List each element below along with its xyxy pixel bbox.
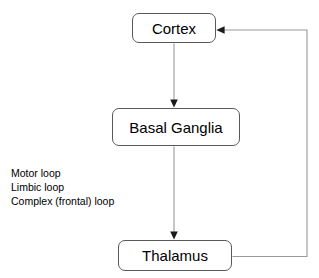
loop-item-limbic: Limbic loop (11, 180, 114, 194)
diagram-canvas: Cortex Basal Ganglia Thalamus Motor loop… (0, 0, 319, 278)
node-cortex-label: Cortex (152, 21, 196, 36)
edge-thalamus-to-cortex-arrowhead (216, 26, 224, 34)
node-basal-ganglia[interactable]: Basal Ganglia (112, 108, 240, 146)
loop-item-motor: Motor loop (11, 166, 114, 180)
loop-type-list: Motor loop Limbic loop Complex (frontal)… (11, 166, 114, 208)
edge-basal-ganglia-to-thalamus-arrowhead (170, 232, 178, 240)
node-thalamus-label: Thalamus (142, 248, 208, 263)
loop-item-complex-frontal: Complex (frontal) loop (11, 194, 114, 208)
node-thalamus[interactable]: Thalamus (118, 240, 232, 271)
node-cortex[interactable]: Cortex (132, 13, 216, 43)
node-basal-ganglia-label: Basal Ganglia (129, 120, 222, 135)
edge-cortex-to-basal-ganglia-arrowhead (170, 100, 178, 108)
